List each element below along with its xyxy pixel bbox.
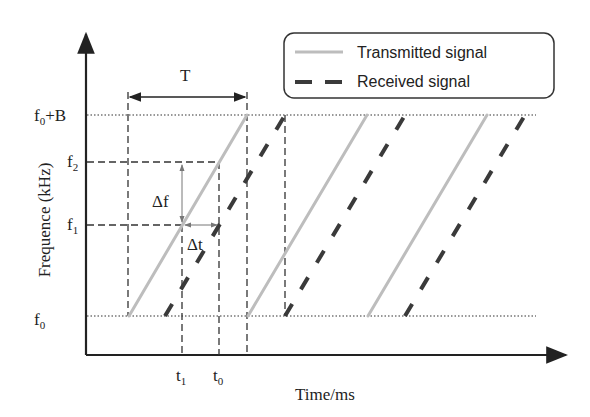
delta-t-label: Δt: [187, 235, 203, 254]
delta-annotations: Δf Δt: [152, 165, 217, 254]
period-label: T: [180, 66, 191, 85]
y-tick-f1: f1: [67, 215, 78, 236]
y-tick-f0-plus-b: f0+B: [34, 106, 66, 127]
x-tick-t0: t0: [213, 366, 224, 387]
x-tick-t1: t1: [176, 366, 186, 387]
x-axis-label: Time/ms: [295, 385, 355, 404]
y-tick-f2: f2: [67, 152, 78, 173]
x-tick-labels: t1 t0: [176, 366, 224, 387]
legend-transmitted-label: Transmitted signal: [357, 44, 487, 61]
period-annotation: T: [130, 66, 245, 97]
y-tick-f0: f0: [34, 310, 46, 331]
legend: Transmitted signal Received signal: [284, 33, 554, 98]
transmitted-ramp-1: [129, 115, 247, 316]
y-axis-label: Frequence (kHz): [35, 163, 54, 278]
delta-f-label: Δf: [152, 192, 169, 211]
received-ramp-3: [405, 115, 525, 316]
legend-received-label: Received signal: [357, 73, 470, 90]
fmcw-diagram: T Δf Δt f0+B f2 f1 f0 Frequence (kHz) t1…: [0, 0, 590, 417]
